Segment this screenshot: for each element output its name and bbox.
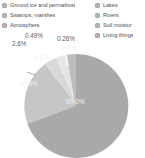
slice-value-label-ground-ice-and-permafrost: 69.0% — [66, 98, 85, 105]
slice-value-label-soil-moisture: 0.26% — [57, 35, 75, 42]
pie-chart-figure: Ground ice and permafrost Swamps, marshe… — [0, 0, 145, 158]
legend-dot-icon — [95, 3, 100, 8]
slice-value-label-atmosphere: 3.8% — [34, 54, 49, 61]
slice-value-label-lakes: 2.6% — [12, 40, 26, 47]
legend-column-left: Ground ice and permafrost Swamps, marshe… — [2, 1, 80, 31]
legend-item-label: Lakes — [103, 1, 118, 10]
legend-dot-icon — [2, 3, 7, 8]
legend-item-label: Rivers — [103, 11, 119, 20]
legend-dot-icon — [2, 13, 7, 18]
legend-item-ground-ice-and-permafrost[interactable]: Ground ice and permafrost — [2, 1, 80, 10]
slice-value-label-swamps-marshes: 20.9% — [19, 80, 38, 87]
legend-item-lakes[interactable]: Lakes — [95, 1, 145, 10]
legend-dot-icon — [95, 13, 100, 18]
slice-value-label-living-things: 3.0% — [61, 44, 76, 51]
slice-value-label-rivers: 0.49% — [25, 32, 43, 39]
legend-item-swamps-marshes[interactable]: Swamps, marshes — [2, 11, 80, 20]
legend-item-label: Swamps, marshes — [10, 11, 55, 20]
legend-item-rivers[interactable]: Rivers — [95, 11, 145, 20]
legend-item-label: Ground ice and permafrost — [10, 1, 75, 10]
